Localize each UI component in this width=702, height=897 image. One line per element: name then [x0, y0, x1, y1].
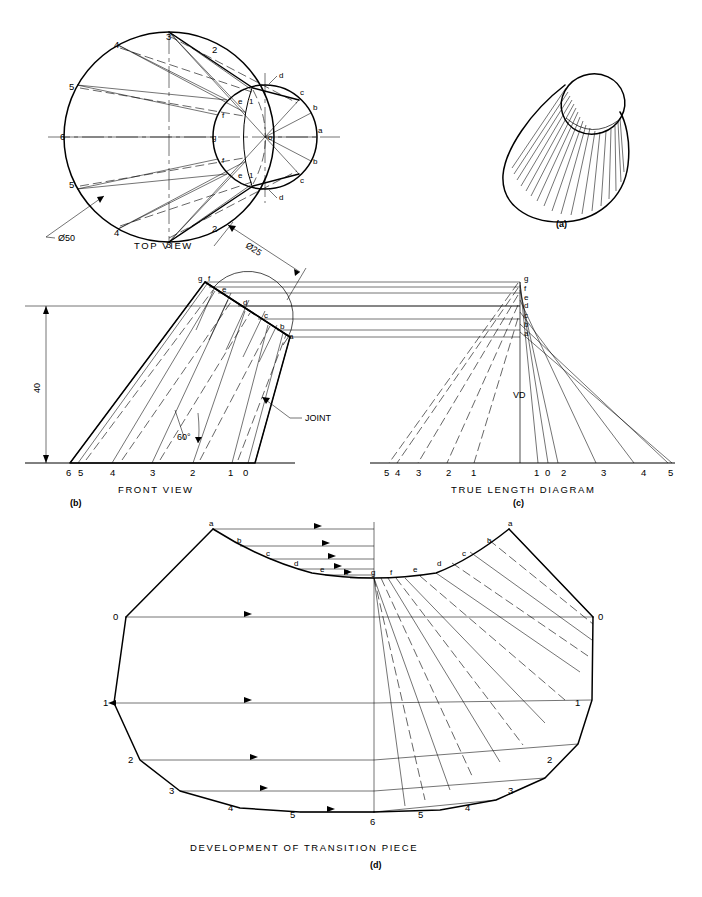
top-view-letter-d-lower-leader [269, 190, 277, 198]
front-view-letter-f: f [208, 274, 211, 283]
top-view-upper-outline [169, 32, 299, 100]
development-arc-f-right: f [390, 568, 393, 577]
development-caption: DEVELOPMENT OF TRANSITION PIECE [190, 842, 418, 853]
top-view-letter-a: a [318, 126, 323, 135]
development-group: 0 1 2 3 4 5 6 0 1 2 3 4 5 a b c d e f g … [103, 519, 603, 870]
top-view-letter-b-upper: b [313, 103, 318, 112]
development-right-3: 3 [508, 785, 513, 796]
height-dimension-40 [43, 306, 49, 463]
tld-caption: TRUE LENGTH DIAGRAM [451, 484, 595, 495]
top-view-point-4-upper: 4 [114, 39, 119, 50]
top-view-letter-f-lower: f [222, 156, 225, 165]
top-view-letter-f-upper: f [222, 111, 225, 120]
figure-a-key: (a) [556, 219, 567, 229]
tld-left-3: 3 [416, 467, 421, 478]
development-arc-a-left: a [209, 519, 214, 528]
development-right-5: 5 [418, 809, 423, 820]
top-view-center-o: o [268, 133, 273, 142]
front-view-letter-c: c [264, 311, 268, 320]
tld-right-0: 0 [545, 467, 550, 478]
development-elements-right [374, 617, 593, 812]
top-view-point-3-upper: 3 [166, 31, 171, 42]
top-view-letter-c-lower: c [300, 176, 304, 185]
development-arc-b-left: b [237, 536, 242, 545]
development-right-4: 4 [465, 802, 470, 813]
top-view-letter-d-upper: d [279, 71, 283, 80]
development-arc-d-right: d [437, 559, 441, 568]
development-arc-b-right: b [487, 536, 492, 545]
development-right-1: 1 [575, 697, 580, 708]
development-arc-d-left: d [294, 559, 298, 568]
top-view-point-5-upper: 5 [69, 81, 74, 92]
top-view-point-2-lower: 2 [212, 223, 217, 234]
figure-b-key: (b) [70, 498, 82, 508]
top-view-element-lines [64, 32, 317, 242]
development-right-2: 2 [547, 754, 552, 765]
tld-right-5: 5 [668, 467, 673, 478]
tld-letter-f: f [524, 284, 527, 293]
tld-letter-c: c [524, 311, 528, 320]
development-left-3: 3 [169, 785, 174, 796]
tld-right-2: 2 [561, 467, 566, 478]
front-view-letter-d: d [243, 298, 247, 307]
tld-right-1: 1 [534, 467, 539, 478]
drawing-sheet: Ø50 3 4 5 2 6 5 4 3 2 a b b c c d d e e … [0, 0, 702, 897]
tld-letter-d: d [524, 301, 528, 310]
pictorial-view-group: (a) [503, 66, 633, 229]
tld-left-1: 1 [471, 467, 476, 478]
front-view-auxiliary-semicircle [213, 271, 293, 345]
top-view-point-2-upper: 2 [212, 44, 217, 55]
front-view-letter-b: b [280, 322, 285, 331]
top-view-point-4-lower: 4 [114, 227, 119, 238]
front-view-top-edge [205, 282, 290, 337]
front-view-base-4: 4 [110, 467, 115, 478]
top-view-group: Ø50 3 4 5 2 6 5 4 3 2 a b b c c d d e e … [46, 31, 340, 251]
front-view-letter-e: e [222, 285, 227, 294]
top-view-one-lower: 1 [249, 171, 254, 180]
top-view-caption: TOP VIEW [134, 240, 193, 251]
true-length-diagram-group: VD g f e d c b a 5 4 3 2 [370, 274, 675, 508]
front-view-projection-lines [205, 282, 520, 337]
front-view-auxiliary-chords [196, 289, 277, 362]
development-arc-c-right: c [462, 549, 466, 558]
top-view-letter-c-upper: c [300, 88, 304, 97]
top-view-lower-outline [169, 174, 299, 242]
tld-left-2: 2 [446, 467, 451, 478]
top-view-one-upper: 1 [249, 97, 254, 106]
development-left-5: 5 [290, 809, 295, 820]
development-seam-left [126, 529, 213, 617]
top-view-letter-e-lower: e [238, 171, 243, 180]
top-view-letter-e-upper: e [238, 97, 243, 106]
development-arc-e-right: e [413, 565, 418, 574]
top-view-letter-d-lower: d [279, 193, 283, 202]
tld-letter-b: b [524, 320, 529, 329]
front-view-group: 40 Ø25 [25, 222, 520, 508]
development-arc-c-left: c [266, 549, 270, 558]
front-view-base-2: 2 [190, 467, 195, 478]
development-arc-e-left: e [320, 565, 325, 574]
figure-c-key: (c) [513, 498, 524, 508]
development-left-0: 0 [113, 611, 118, 622]
top-view-point-5-lower: 5 [69, 179, 74, 190]
angle-60-label: 60° [177, 432, 191, 442]
front-view-letter-a: a [289, 332, 294, 341]
top-view-letter-d-upper-leader [269, 76, 277, 84]
tld-vd-label: VD [513, 390, 526, 400]
engineering-drawing-canvas: Ø50 3 4 5 2 6 5 4 3 2 a b b c c d d e e … [0, 0, 702, 897]
tld-right-rays [520, 282, 672, 463]
tld-letter-a: a [524, 329, 529, 338]
front-view-base-0: 0 [243, 467, 248, 478]
development-right-0: 0 [598, 611, 603, 622]
tld-left-4: 4 [395, 467, 400, 478]
tld-left-5: 5 [384, 467, 389, 478]
tld-right-4: 4 [641, 467, 646, 478]
pictorial-ruling-lines [512, 88, 624, 215]
development-arc-g-center: g [371, 568, 375, 577]
front-view-base-6: 6 [66, 467, 71, 478]
tld-left-rays [389, 283, 518, 463]
front-view-letter-g: g [198, 274, 202, 283]
diameter-50-label: Ø50 [58, 233, 75, 243]
figure-d-key: (d) [370, 860, 382, 870]
top-view-letter-g: g [212, 133, 216, 142]
top-view-point-6: 6 [60, 131, 65, 142]
